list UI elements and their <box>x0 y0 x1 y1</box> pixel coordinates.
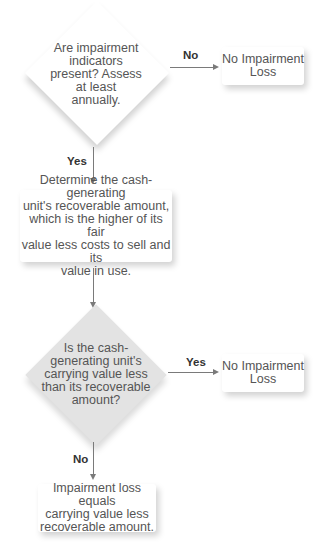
outcome-2-line: Loss <box>222 373 304 386</box>
result-line: recoverable amount. <box>38 521 156 534</box>
decision-2-text: Is the cash- generating unit's carrying … <box>40 342 152 407</box>
outcome-box-2: No Impairment Loss <box>222 354 304 392</box>
decision-2-yes-label: Yes <box>186 356 206 368</box>
arrow-head-right-icon <box>213 369 219 375</box>
result-box: Impairment loss equals carrying value le… <box>38 484 156 532</box>
arrow-no-1 <box>170 67 214 68</box>
process-line: Determine the cash-generating <box>20 174 172 200</box>
outcome-box-1: No Impairment Loss <box>222 47 304 85</box>
decision-1-no-label: No <box>183 49 198 61</box>
decision-1-text: Are impairment indicators present? Asses… <box>40 42 152 107</box>
arrow-no-2 <box>93 442 94 476</box>
process-box: Determine the cash-generating unit's rec… <box>20 190 172 262</box>
process-line: value in use. <box>20 265 172 278</box>
decision-1-line: annually. <box>40 94 152 107</box>
arrow-yes-2 <box>168 372 214 373</box>
decision-1-yes-label: Yes <box>67 155 87 167</box>
decision-2-no-label: No <box>73 453 88 465</box>
arrow-to-decision-2 <box>93 268 94 306</box>
outcome-1-line: Loss <box>222 66 304 79</box>
decision-2-line: amount? <box>40 394 152 407</box>
process-line: which is the higher of its fair <box>20 213 172 239</box>
arrow-head-right-icon <box>213 64 219 70</box>
process-line: value less costs to sell and its <box>20 239 172 265</box>
arrow-head-down-icon <box>90 474 96 480</box>
result-line: Impairment loss equals <box>38 482 156 508</box>
